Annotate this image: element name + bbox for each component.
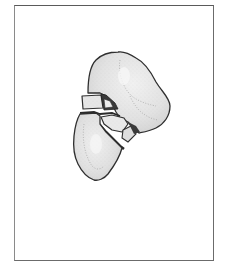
left-block-fragment	[82, 95, 103, 109]
fractured-bone-illustration	[0, 0, 227, 277]
